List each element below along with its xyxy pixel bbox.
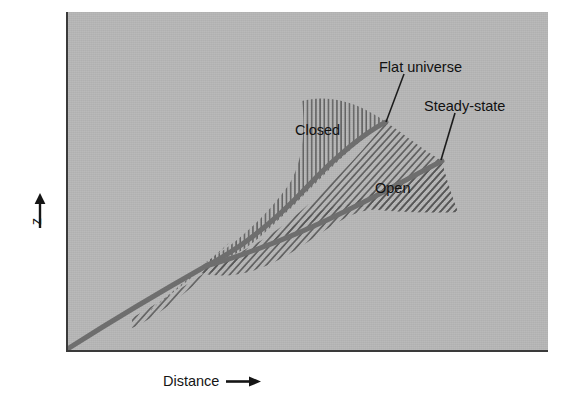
hatch-tail — [132, 260, 224, 328]
region-label-closed: Closed — [295, 122, 340, 138]
flat-universe-leader-line — [386, 74, 404, 122]
right-arrow-icon — [226, 375, 262, 388]
steady-state-leader-line — [441, 113, 455, 160]
x-axis-label: Distance — [163, 373, 219, 389]
trunk-curve — [69, 266, 206, 348]
y-axis-group: z — [22, 192, 62, 250]
callout-label-steady-state: Steady-state — [424, 98, 505, 114]
x-axis-group: Distance — [163, 370, 262, 392]
region-label-open: Open — [375, 180, 410, 196]
expansion-diagram-figure: Closed Open Flat universe Steady-state z… — [0, 0, 570, 408]
curves-layer — [0, 0, 570, 408]
callout-label-flat-universe: Flat universe — [379, 59, 462, 75]
y-axis-label: z — [28, 203, 44, 225]
